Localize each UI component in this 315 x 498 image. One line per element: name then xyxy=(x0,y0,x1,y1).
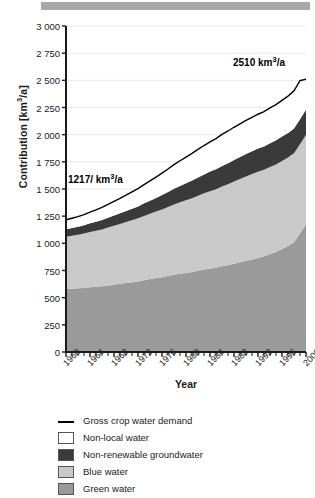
legend-swatch-icon xyxy=(58,449,74,461)
legend-item: Non-local water xyxy=(58,429,308,446)
x-tick-label: 2000 xyxy=(301,347,315,368)
chart-legend: Gross crop water demandNon-local waterNo… xyxy=(58,412,308,497)
annotation-start-value: 1217/ km3/a xyxy=(68,172,123,185)
legend-item: Green water xyxy=(58,480,308,497)
legend-swatch-icon xyxy=(58,466,74,478)
x-tick-label: 1980 xyxy=(181,347,202,368)
legend-swatch-icon xyxy=(58,483,74,495)
y-axis-title: Contribution [km3/a] xyxy=(15,57,29,217)
x-tick-label: 1992 xyxy=(253,347,274,368)
x-tick-label: 1968 xyxy=(109,347,130,368)
x-axis-title: Year xyxy=(66,378,306,390)
legend-item: Blue water xyxy=(58,463,308,480)
legend-item-label: Green water xyxy=(83,483,135,494)
legend-item-label: Blue water xyxy=(83,466,128,477)
legend-line-key-icon xyxy=(58,415,74,427)
annotation-end-value: 2510 km3/a xyxy=(233,55,285,68)
x-tick-label: 1988 xyxy=(229,347,250,368)
x-tick-label: 1976 xyxy=(157,347,178,368)
x-tick-label: 1960 xyxy=(61,347,82,368)
x-tick-label: 1964 xyxy=(85,347,106,368)
legend-item-label: Gross crop water demand xyxy=(83,415,192,426)
legend-item-label: Non-local water xyxy=(83,432,149,443)
legend-swatch-icon xyxy=(58,432,74,444)
legend-item: Non-renewable groundwater xyxy=(58,446,308,463)
x-tick-label: 1996 xyxy=(277,347,298,368)
chart-figure: 02505007501 0001 2501 5001 7502 0002 250… xyxy=(0,0,315,498)
legend-item: Gross crop water demand xyxy=(58,412,308,429)
legend-item-label: Non-renewable groundwater xyxy=(83,449,203,460)
x-tick-label: 1984 xyxy=(205,347,226,368)
x-tick-label: 1972 xyxy=(133,347,154,368)
